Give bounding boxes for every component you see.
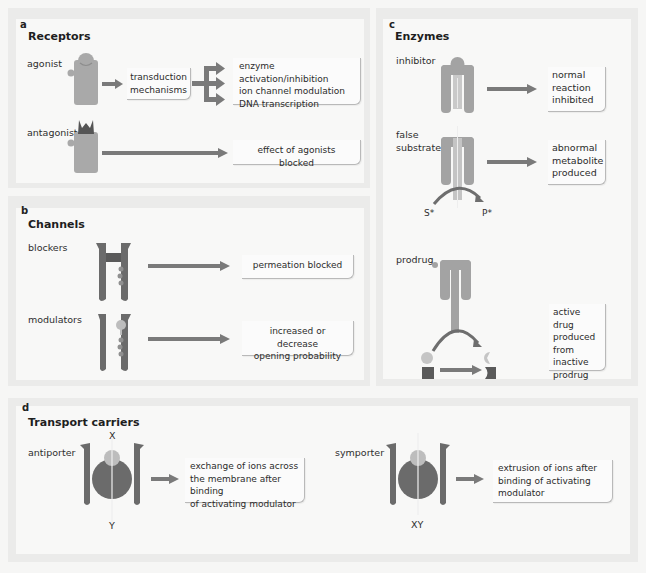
normal-reaction-inhibited-box: normal reaction inhibited — [548, 67, 606, 112]
antagonist-receptor-icon — [64, 118, 110, 174]
panel-a-letter: a — [20, 19, 27, 30]
symporter-outcome-box: extrusion of ions after binding of activ… — [493, 460, 613, 503]
arrow-antiporter — [151, 474, 181, 484]
agonist-outcomes-box: enzyme activation/inhibition ion channel… — [233, 58, 361, 105]
panel-c-title: Enzymes — [395, 30, 449, 43]
active-drug-box: active drug produced from inactive prodr… — [549, 304, 606, 371]
symporter-label: symporter — [335, 446, 384, 459]
arrow-blockers — [148, 261, 232, 271]
antiporter-icon — [80, 443, 146, 525]
arrow-antagonist-blocked — [102, 148, 230, 158]
panel-a-title: Receptors — [28, 30, 91, 43]
opening-probability-box: increased or decrease opening probabilit… — [242, 321, 354, 356]
arrow-false-substrate — [487, 157, 539, 167]
panel-d-title: Transport carriers — [28, 416, 139, 429]
arrow-to-transduction — [102, 79, 124, 89]
modulated-channel-icon — [96, 314, 136, 372]
arrow-inhibitor — [487, 84, 539, 94]
prodrug-label: prodrug — [396, 253, 434, 266]
antiporter-outcome-box: exchange of ions across the membrane aft… — [185, 458, 305, 503]
antagonist-outcome-box: effect of agonists blocked — [233, 140, 361, 165]
product-p-label: P* — [482, 207, 492, 220]
transduction-mechanisms-box: transduction mechanisms — [127, 68, 191, 100]
modulators-label: modulators — [28, 313, 82, 326]
agonist-label: agonist — [27, 57, 62, 70]
false-substrate-enzyme-icon — [430, 126, 492, 208]
branching-arrow-icon — [192, 62, 228, 106]
permeation-blocked-box: permeation blocked — [242, 255, 354, 279]
symporter-icon — [386, 443, 452, 525]
arrow-symporter — [456, 474, 486, 484]
substrate-s-label: S* — [424, 207, 434, 220]
abnormal-metabolite-box: abnormal metabolite produced — [548, 140, 606, 185]
panel-b-letter: b — [21, 205, 28, 216]
inhibited-enzyme-icon — [441, 56, 477, 114]
panel-c-letter: c — [389, 19, 395, 30]
blockers-label: blockers — [28, 241, 68, 254]
panel-d-letter: d — [22, 402, 29, 413]
arrow-modulators — [148, 334, 232, 344]
panel-b-title: Channels — [28, 218, 85, 231]
inhibitor-label: inhibitor — [396, 54, 435, 67]
blocked-channel-icon — [96, 243, 136, 301]
prodrug-enzyme-icon — [430, 255, 510, 375]
antiporter-label: antiporter — [28, 446, 75, 459]
